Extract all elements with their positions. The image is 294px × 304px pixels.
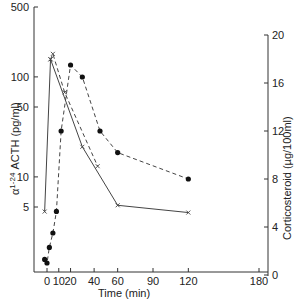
x-tick-label: 60 <box>112 275 124 287</box>
left-tick-label: 5 <box>23 201 29 213</box>
dot-marker-icon <box>44 260 49 265</box>
chart: 5001005010520161284001020406090120180α1-… <box>0 0 294 304</box>
x-tick-label: 10 <box>53 275 65 287</box>
x-tick-label: 90 <box>147 275 159 287</box>
x-tick-label: 180 <box>250 275 268 287</box>
dot-marker-icon <box>50 230 55 235</box>
left-tick-label: 100 <box>11 71 29 83</box>
right-tick-label: 20 <box>272 29 284 41</box>
dot-marker-icon <box>115 150 120 155</box>
dot-marker-icon <box>68 62 73 67</box>
series-line <box>51 54 98 166</box>
right-tick-label: 16 <box>272 77 284 89</box>
x-tick-label: 20 <box>64 275 76 287</box>
dot-marker-icon <box>80 74 85 79</box>
left-tick-label: 500 <box>11 1 29 13</box>
dot-marker-icon <box>47 245 52 250</box>
x-axis-title: Time (min) <box>98 287 150 299</box>
right-tick-label: 4 <box>272 221 278 233</box>
right-tick-label: 0 <box>272 269 278 281</box>
x-marker-icon <box>96 164 100 168</box>
right-axis-title: Corticosteroid (µg/100ml) <box>281 116 293 240</box>
x-tick-label: 0 <box>44 275 50 287</box>
dot-marker-icon <box>54 209 59 214</box>
dot-marker-icon <box>59 128 64 133</box>
x-tick-label: 120 <box>179 275 197 287</box>
right-tick-label: 8 <box>272 173 278 185</box>
series-line <box>45 65 189 263</box>
dot-marker-icon <box>97 128 102 133</box>
x-tick-label: 40 <box>88 275 100 287</box>
dot-marker-icon <box>186 176 191 181</box>
series-line <box>45 59 189 212</box>
